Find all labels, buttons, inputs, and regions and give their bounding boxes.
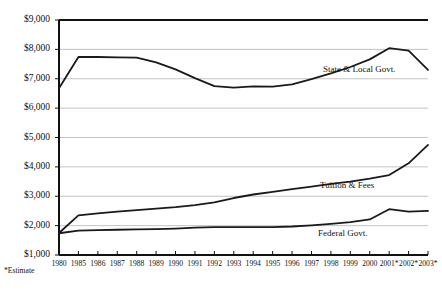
- x-axis-tick-label: 1992: [207, 259, 222, 268]
- x-axis-tick-label: 1996: [284, 259, 299, 268]
- footnote-estimate: *Estimate: [4, 266, 34, 275]
- series-label-state-local-govt: State & Local Govt.: [323, 64, 395, 74]
- x-axis-tick-label: 1993: [226, 259, 241, 268]
- y-axis-tick-label: $8,000: [2, 43, 50, 53]
- x-axis-tick-label: 1990: [168, 259, 183, 268]
- x-axis-tick-label: 1999: [343, 259, 358, 268]
- x-axis-tick-label: 1998: [323, 259, 338, 268]
- y-axis-tick-label: $6,000: [2, 102, 50, 112]
- x-axis-tick-label: 2001*: [380, 259, 399, 268]
- series-label-federal-govt: Federal Govt.: [318, 228, 368, 238]
- x-axis-tick-label: 1988: [129, 259, 144, 268]
- chart-container: $9,000$8,000$7,000$6,000$5,000$4,000$3,0…: [0, 0, 442, 293]
- x-axis-tick-label: 1991: [187, 259, 202, 268]
- y-axis-tick-label: $2,000: [2, 220, 50, 230]
- x-axis-tick-label: 1997: [304, 259, 319, 268]
- x-axis-tick-label: 1980: [51, 259, 66, 268]
- x-axis-tick-label: 1994: [246, 259, 261, 268]
- y-axis-tick-label: $1,000: [2, 249, 50, 259]
- y-axis-tick-label: $4,000: [2, 161, 50, 171]
- x-axis-tick-label: 1985: [71, 259, 86, 268]
- y-axis-tick-label: $3,000: [2, 190, 50, 200]
- x-axis-tick-label: 2000: [362, 259, 377, 268]
- line-chart-plot: [0, 0, 442, 293]
- x-axis-tick-label: 1986: [90, 259, 105, 268]
- x-axis-tick-label: 1987: [110, 259, 125, 268]
- data-series-lines: [59, 48, 428, 233]
- y-axis-tick-label: $9,000: [2, 14, 50, 24]
- x-axis-tick-label: 1995: [265, 259, 280, 268]
- x-axis-tick-label: 2002*: [399, 259, 418, 268]
- y-axis-tick-label: $5,000: [2, 132, 50, 142]
- x-axis-tick-label: 2003*: [419, 259, 438, 268]
- y-axis-tick-label: $7,000: [2, 73, 50, 83]
- gridlines: [59, 49, 428, 255]
- series-label-tuition-fees: Tuition & Fees: [320, 180, 374, 190]
- x-axis-tick-label: 1989: [149, 259, 164, 268]
